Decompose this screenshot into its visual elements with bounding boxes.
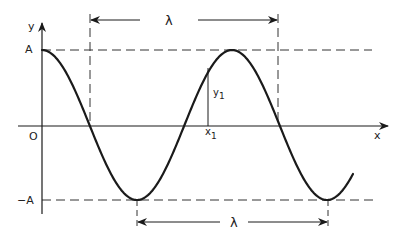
amplitude-positive-label: A	[25, 43, 33, 56]
x1-label: x1	[205, 126, 217, 141]
x-axis-label: x	[374, 129, 381, 142]
wave-curve	[42, 50, 353, 200]
wavelength-top-label: λ	[165, 13, 173, 28]
wavelength-bottom-label: λ	[230, 215, 238, 230]
amplitude-negative-label: −A	[17, 194, 34, 207]
origin-label: O	[29, 130, 38, 143]
y1-label: y1	[213, 87, 225, 101]
wave-diagram: y x O A −A λ λ y1 x1	[0, 0, 406, 244]
y-axis-label: y	[28, 20, 35, 33]
